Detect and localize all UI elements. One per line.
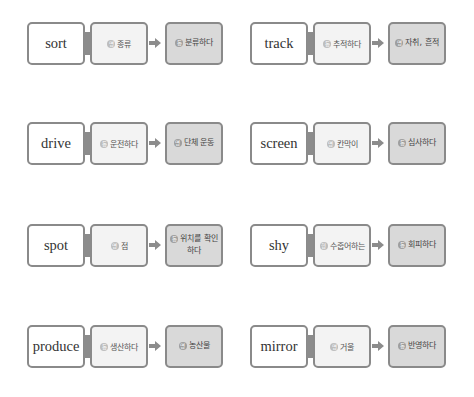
word-box: sort	[27, 22, 85, 65]
part-of-speech-badge: 명	[174, 139, 182, 147]
word-text: spot	[44, 237, 68, 254]
meaning-box: 명점	[90, 224, 148, 267]
word-box: spot	[27, 224, 85, 267]
meaning-box: 명거울	[313, 325, 371, 368]
part-of-speech-badge: 명	[395, 39, 403, 47]
meaning-text: 거울	[340, 343, 354, 352]
derived-meaning-text: 위치를 확인하다	[180, 234, 218, 255]
part-of-speech-badge: 동	[398, 241, 406, 249]
word-text: shy	[269, 237, 289, 254]
word-text: produce	[33, 338, 80, 355]
part-of-speech-badge: 명	[107, 40, 115, 48]
part-of-speech-badge: 동	[100, 343, 108, 351]
arrow-right-icon	[372, 240, 384, 250]
derived-meaning-text: 회피하다	[408, 240, 436, 249]
part-of-speech-badge: 명	[327, 140, 335, 148]
derived-meaning-box: 동분류하다	[165, 22, 223, 65]
meaning-text: 칸막이	[337, 140, 358, 149]
meaning-text: 추적하다	[333, 40, 361, 49]
derived-meaning-text: 심사하다	[408, 138, 436, 147]
word-text: sort	[45, 35, 67, 52]
derived-meaning-text: 반영하다	[408, 341, 436, 350]
word-box: drive	[27, 122, 85, 165]
derived-meaning-text: 분류하다	[185, 38, 213, 47]
derived-meaning-box: 명농산물	[165, 325, 223, 368]
part-of-speech-badge: 동	[398, 342, 406, 350]
word-box: mirror	[250, 325, 308, 368]
derived-meaning-box: 명단체 운동	[165, 122, 223, 165]
meaning-text: 점	[121, 242, 128, 251]
arrow-right-icon	[149, 341, 161, 351]
arrow-right-icon	[372, 38, 384, 48]
part-of-speech-badge: 동	[100, 140, 108, 148]
meaning-text: 수줍어하는	[330, 242, 365, 251]
arrow-right-icon	[149, 240, 161, 250]
meaning-text: 생산하다	[110, 343, 138, 352]
word-text: mirror	[260, 338, 297, 355]
derived-meaning-box: 동위치를 확인하다	[165, 224, 223, 267]
arrow-right-icon	[372, 138, 384, 148]
part-of-speech-badge: 동	[175, 39, 183, 47]
part-of-speech-badge: 동	[323, 40, 331, 48]
part-of-speech-badge: 형	[320, 242, 328, 250]
word-text: screen	[260, 135, 297, 152]
derived-meaning-box: 동심사하다	[388, 122, 446, 165]
word-box: shy	[250, 224, 308, 267]
derived-meaning-text: 농산물	[189, 341, 210, 350]
derived-meaning-text: 단체 운동	[184, 138, 215, 147]
word-box: screen	[250, 122, 308, 165]
meaning-text: 운전하다	[110, 140, 138, 149]
derived-meaning-text: 자취, 흔적	[405, 38, 438, 47]
part-of-speech-badge: 동	[170, 235, 178, 243]
meaning-box: 형수줍어하는	[313, 224, 371, 267]
meaning-box: 명칸막이	[313, 122, 371, 165]
word-box: produce	[27, 325, 85, 368]
derived-meaning-box: 동반영하다	[388, 325, 446, 368]
derived-meaning-box: 명자취, 흔적	[388, 22, 446, 65]
meaning-box: 동생산하다	[90, 325, 148, 368]
part-of-speech-badge: 명	[111, 242, 119, 250]
arrow-right-icon	[372, 341, 384, 351]
arrow-right-icon	[149, 38, 161, 48]
word-text: track	[265, 35, 294, 52]
part-of-speech-badge: 명	[179, 342, 187, 350]
word-box: track	[250, 22, 308, 65]
word-text: drive	[41, 135, 71, 152]
part-of-speech-badge: 명	[330, 343, 338, 351]
meaning-box: 동운전하다	[90, 122, 148, 165]
meaning-box: 동추적하다	[313, 22, 371, 65]
meaning-box: 명종류	[90, 22, 148, 65]
arrow-right-icon	[149, 138, 161, 148]
part-of-speech-badge: 동	[398, 139, 406, 147]
meaning-text: 종류	[117, 40, 131, 49]
derived-meaning-box: 동회피하다	[388, 224, 446, 267]
